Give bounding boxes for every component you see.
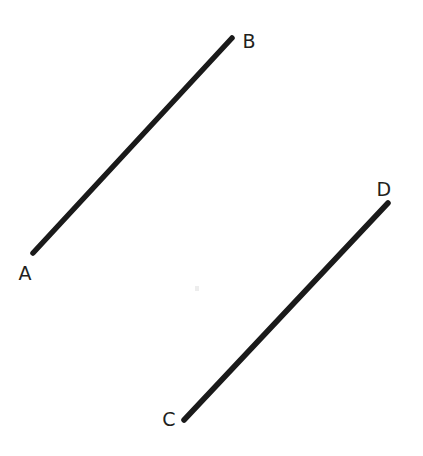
geometry-figure: A B C D <box>0 0 423 456</box>
point-label-b: B <box>242 30 255 52</box>
scan-artifact-speck <box>195 286 199 291</box>
figure-canvas-container: A B C D <box>0 0 423 456</box>
point-label-d: D <box>377 178 392 200</box>
point-label-a: A <box>18 262 31 284</box>
point-label-c: C <box>162 408 175 430</box>
